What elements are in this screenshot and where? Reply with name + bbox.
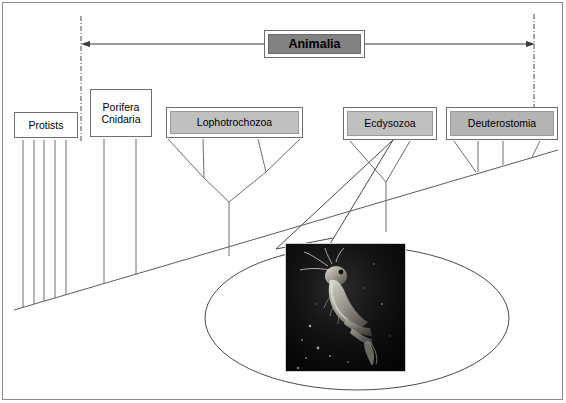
taxon-box-animalia[interactable]: Animalia bbox=[264, 30, 365, 58]
taxon-label-protists: Protists bbox=[28, 119, 63, 131]
taxon-box-protists[interactable]: Protists bbox=[14, 112, 78, 138]
lopho-tip-3 bbox=[258, 139, 266, 172]
taxon-label-deuterostomia: Deuterostomia bbox=[450, 111, 554, 136]
deut-tip-4 bbox=[532, 141, 540, 157]
range-arrow-left-head bbox=[81, 41, 90, 47]
leader-line-lower bbox=[330, 140, 393, 244]
taxon-label-animalia: Animalia bbox=[268, 34, 361, 54]
deut-tip-1 bbox=[454, 141, 476, 172]
leader-line-upper bbox=[276, 140, 393, 249]
lophotrochozoa-branches bbox=[168, 139, 300, 256]
lopho-node-left bbox=[204, 178, 229, 202]
taxon-box-deuterostomia[interactable]: Deuterostomia bbox=[446, 107, 558, 140]
lopho-tip-2 bbox=[203, 139, 204, 178]
krill-photograph bbox=[285, 243, 406, 372]
lopho-tip-4 bbox=[266, 139, 300, 172]
diagram-canvas: Protists Porifera Cnidaria Lophotrochozo… bbox=[0, 0, 566, 403]
taxon-label-lophotrochozoa: Lophotrochozoa bbox=[170, 111, 299, 134]
taxon-box-ecdysozoa[interactable]: Ecdysozoa bbox=[343, 107, 437, 140]
taxon-label-ecdysozoa: Ecdysozoa bbox=[347, 111, 433, 136]
callout-leader-lines bbox=[276, 140, 393, 249]
tree-lines-layer bbox=[0, 0, 566, 403]
taxon-box-lophotrochozoa[interactable]: Lophotrochozoa bbox=[166, 107, 303, 138]
protists-branches bbox=[23, 140, 66, 307]
taxon-label-porifera-cnidaria: Porifera Cnidaria bbox=[101, 101, 140, 126]
taxon-box-porifera-cnidaria[interactable]: Porifera Cnidaria bbox=[90, 89, 152, 137]
deuterostomia-branches bbox=[454, 141, 540, 172]
ecdy-tip-1 bbox=[350, 141, 386, 182]
ecdysozoa-branches bbox=[350, 141, 410, 232]
ecdy-tip-2 bbox=[386, 141, 410, 182]
porifera-cnidaria-branches bbox=[104, 139, 136, 284]
lopho-node-right bbox=[229, 172, 266, 202]
lopho-tip-1 bbox=[168, 139, 204, 178]
